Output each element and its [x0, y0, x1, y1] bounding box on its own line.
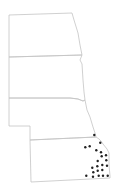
occurrence-dot	[93, 134, 95, 136]
occurrence-points	[84, 134, 109, 178]
occurrence-dot	[96, 165, 98, 167]
occurrence-dot	[106, 165, 108, 167]
occurrence-dot	[97, 170, 99, 172]
distribution-map	[0, 0, 123, 196]
region-north-dakota	[9, 13, 82, 57]
occurrence-dot	[92, 171, 94, 173]
occurrence-dot	[91, 167, 93, 169]
region-south-dakota	[9, 55, 85, 101]
occurrence-dot	[84, 146, 86, 148]
occurrence-dot	[85, 175, 87, 177]
occurrence-dot	[98, 175, 100, 177]
occurrence-dot	[92, 176, 94, 178]
occurrence-dot	[95, 149, 97, 151]
occurrence-dot	[101, 164, 103, 166]
occurrence-dot	[89, 145, 91, 147]
region-nebraska	[9, 98, 96, 140]
occurrence-dot	[100, 151, 102, 153]
occurrence-dot	[101, 155, 103, 157]
state-outlines	[9, 13, 110, 182]
occurrence-dot	[107, 175, 109, 177]
occurrence-dot	[105, 154, 107, 156]
occurrence-dot	[99, 142, 101, 144]
occurrence-dot	[97, 160, 99, 162]
occurrence-dot	[102, 175, 104, 177]
occurrence-dot	[105, 159, 107, 161]
occurrence-dot	[101, 169, 103, 171]
